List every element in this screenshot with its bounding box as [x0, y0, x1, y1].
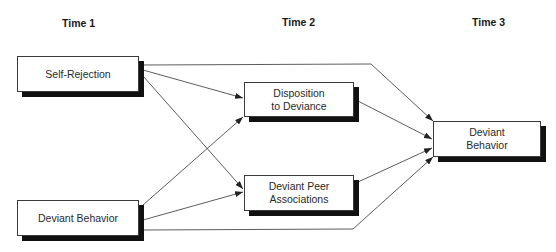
node-label: Self-Rejection [45, 68, 110, 81]
node-label-line1: Deviant [466, 126, 507, 139]
edge-deviantbehavior1-to-peer [143, 192, 243, 220]
node-deviant-behavior-time3: Deviant Behavior [433, 121, 541, 157]
edge-selfrejection-to-disposition [143, 70, 243, 98]
node-label-line1: Deviant Peer [269, 180, 330, 193]
node-label-line2: Associations [269, 193, 330, 206]
node-label-line2: to Deviance [271, 100, 326, 113]
edge-disposition-to-deviantbehavior3 [358, 101, 432, 139]
node-disposition-to-deviance: Disposition to Deviance [244, 82, 354, 117]
node-deviant-behavior-time1: Deviant Behavior [17, 200, 139, 236]
edge-peer-to-deviantbehavior3 [358, 148, 432, 182]
edge-selfrejection-to-peer [143, 76, 243, 189]
edge-deviantbehavior1-to-disposition [143, 117, 243, 205]
node-label-line1: Disposition [271, 87, 326, 100]
node-label: Deviant Behavior [38, 212, 118, 225]
node-self-rejection: Self-Rejection [17, 56, 139, 92]
node-label-line2: Behavior [466, 139, 507, 152]
node-deviant-peer-associations: Deviant Peer Associations [244, 175, 354, 211]
